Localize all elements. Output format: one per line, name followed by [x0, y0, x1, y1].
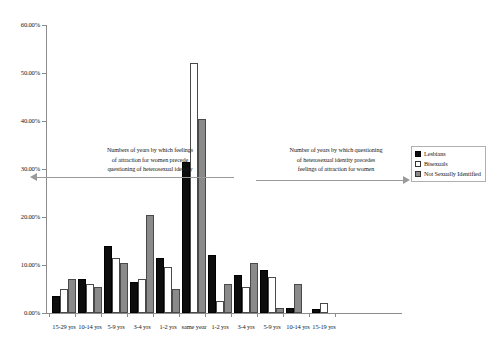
y-axis-tick — [42, 313, 47, 314]
y-axis-tick-label: 40.00% — [0, 117, 40, 124]
x-axis-tick — [283, 313, 284, 317]
bar — [112, 258, 120, 313]
right-annotation-line-3: feelings of attraction for women — [252, 164, 420, 174]
x-axis-tick — [257, 313, 258, 317]
left-arrow-icon — [30, 173, 37, 181]
left-annotation: Numbers of years by which feelings of at… — [60, 145, 240, 174]
y-axis-tick-label: 60.00% — [0, 21, 40, 28]
x-axis-tick — [153, 313, 154, 317]
legend-label-lesbians: Lesbians — [424, 150, 446, 157]
x-axis-category-label: 5-9 yrs — [263, 323, 280, 330]
bar — [130, 282, 138, 313]
bar — [138, 279, 146, 313]
left-annotation-line-3: questioning of heterosexual identity — [60, 164, 240, 174]
bar-chart: 0.00%10.00%20.00%30.00%40.00%50.00%60.00… — [0, 0, 502, 351]
x-axis-tick — [75, 313, 76, 317]
x-axis-category-label: 15-29 yrs — [52, 323, 75, 330]
x-axis-tick — [49, 313, 50, 317]
bar — [260, 270, 268, 313]
bar — [78, 279, 86, 313]
legend-item-lesbians: Lesbians — [415, 150, 481, 157]
legend-swatch-icon-lesbians — [415, 151, 421, 157]
y-axis-tick-label: 0.00% — [0, 309, 40, 316]
x-axis-tick — [127, 313, 128, 317]
bar — [208, 255, 216, 313]
x-axis-category-label: 3-4 yrs — [237, 323, 254, 330]
bar — [164, 267, 172, 313]
x-axis-line — [46, 313, 402, 314]
chart-legend: Lesbians Bisexuals Not Sexually Identifi… — [411, 146, 486, 182]
bar — [86, 284, 94, 313]
x-axis-category-label: 10-14 yrs — [286, 323, 309, 330]
right-annotation-line-2: of heterosexual identity precedes — [252, 155, 420, 165]
legend-swatch-icon-not-sexually-identified — [415, 171, 421, 177]
right-arrow-icon — [403, 176, 410, 184]
x-axis-tick — [231, 313, 232, 317]
bar — [104, 246, 112, 313]
bar — [320, 303, 328, 313]
x-axis-category-label: 3-4 yrs — [133, 323, 150, 330]
x-axis-category-label: 5-9 yrs — [107, 323, 124, 330]
left-annotation-line-1: Numbers of years by which feelings — [60, 145, 240, 155]
x-axis-category-label: 1-2 yrs — [211, 323, 228, 330]
right-annotation: Number of years by which questioning of … — [252, 145, 420, 174]
bar — [120, 263, 128, 313]
legend-item-bisexuals: Bisexuals — [415, 160, 481, 167]
right-arrow-line — [256, 180, 408, 181]
bar — [216, 301, 224, 313]
y-axis-tick-label: 50.00% — [0, 69, 40, 76]
bar — [268, 277, 276, 313]
bar — [60, 289, 68, 313]
left-annotation-line-2: of attraction for women precede — [60, 155, 240, 165]
legend-label-not-sexually-identified: Not Sexually Identified — [424, 170, 481, 177]
bar — [286, 308, 294, 313]
x-axis-tick — [309, 313, 310, 317]
bar — [276, 308, 284, 313]
y-axis-tick-label: 30.00% — [0, 165, 40, 172]
bar — [250, 263, 258, 313]
legend-item-not-sexually-identified: Not Sexually Identified — [415, 170, 481, 177]
x-axis-category-label: 15-19 yrs — [312, 323, 335, 330]
legend-swatch-icon-bisexuals — [415, 161, 421, 167]
legend-label-bisexuals: Bisexuals — [424, 160, 448, 167]
bar — [172, 289, 180, 313]
y-axis-tick-label: 10.00% — [0, 261, 40, 268]
x-axis-tick — [335, 313, 336, 317]
right-annotation-line-1: Number of years by which questioning — [252, 145, 420, 155]
x-axis-tick — [205, 313, 206, 317]
bar — [312, 309, 320, 313]
bar — [94, 287, 102, 313]
x-axis-category-label: same year — [182, 323, 207, 330]
bar — [182, 162, 190, 313]
x-axis-category-label: 1-2 yrs — [159, 323, 176, 330]
bar — [190, 63, 198, 313]
x-axis-tick — [179, 313, 180, 317]
x-axis-category-label: 10-14 yrs — [78, 323, 101, 330]
y-axis-tick-label: 20.00% — [0, 213, 40, 220]
bar — [224, 284, 232, 313]
bar — [146, 215, 154, 313]
bar — [68, 279, 76, 313]
bar — [242, 287, 250, 313]
bar — [52, 296, 60, 313]
bar — [156, 258, 164, 313]
left-arrow-line — [34, 177, 234, 178]
bar — [294, 284, 302, 313]
bar — [234, 275, 242, 313]
x-axis-tick — [101, 313, 102, 317]
